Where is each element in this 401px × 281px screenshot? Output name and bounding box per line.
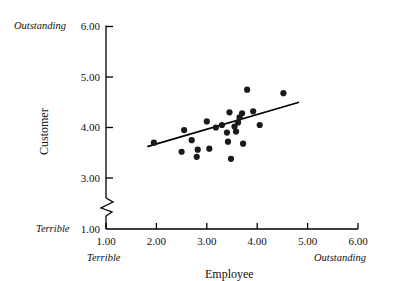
data-point [219,122,225,128]
data-point [257,122,263,128]
y-tick-label: 1.00 [66,224,100,235]
data-point [225,139,231,145]
y-tick-label: 3.00 [66,173,100,184]
data-point [228,156,234,162]
x-tick-label: 3.00 [187,236,227,247]
data-points [151,87,287,162]
x-tick-label: 4.00 [237,236,277,247]
x-axis-title: Employee [205,268,254,280]
x-tick-label: 5.00 [288,236,328,247]
x-axis-anchor-low: Terrible [87,253,120,264]
data-point [239,110,245,116]
data-point [280,90,286,96]
axes [101,26,358,230]
data-point [224,129,230,135]
y-tick-label: 4.00 [66,122,100,133]
data-point [194,154,200,160]
data-point [179,149,185,155]
y-axis-title: Customer [38,108,50,155]
x-tick-label: 2.00 [136,236,176,247]
data-point [250,108,256,114]
data-point [151,140,157,146]
y-tick-label: 6.00 [66,21,100,32]
scatterplot-figure: 1.003.004.005.006.001.002.003.004.005.00… [0,0,401,281]
x-tick-label: 6.00 [338,236,378,247]
x-tick-label: 1.00 [86,236,126,247]
y-axis-anchor-low: Terrible [36,224,69,235]
data-point [226,109,232,115]
data-point [233,128,239,134]
data-point [204,118,210,124]
x-axis-anchor-high: Outstanding [314,253,366,264]
data-point [189,137,195,143]
data-point [195,147,201,153]
data-point [181,127,187,133]
data-point [240,141,246,147]
data-point [244,87,250,93]
y-tick-label: 5.00 [66,72,100,83]
data-point [206,146,212,152]
y-axis-anchor-high: Outstanding [14,21,66,32]
data-point [213,124,219,130]
